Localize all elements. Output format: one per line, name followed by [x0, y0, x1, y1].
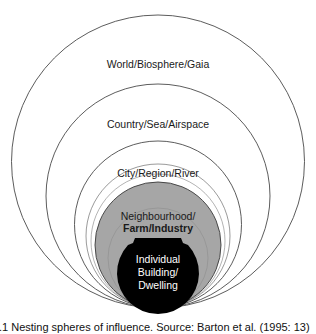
individual-label: Individual: [0, 253, 316, 265]
dwelling-label: Dwelling: [0, 279, 316, 291]
country-label: Country/Sea/Airspace: [0, 118, 316, 130]
building-label: Building/: [0, 266, 316, 278]
farm-industry-label: Farm/Industry: [0, 222, 316, 234]
world-label: World/Biosphere/Gaia: [0, 58, 316, 70]
city-label: City/Region/River: [0, 167, 316, 179]
neighbourhood-label: Neighbourhood/: [0, 210, 316, 222]
figure-caption: .1 Nesting spheres of influence. Source:…: [0, 321, 310, 334]
